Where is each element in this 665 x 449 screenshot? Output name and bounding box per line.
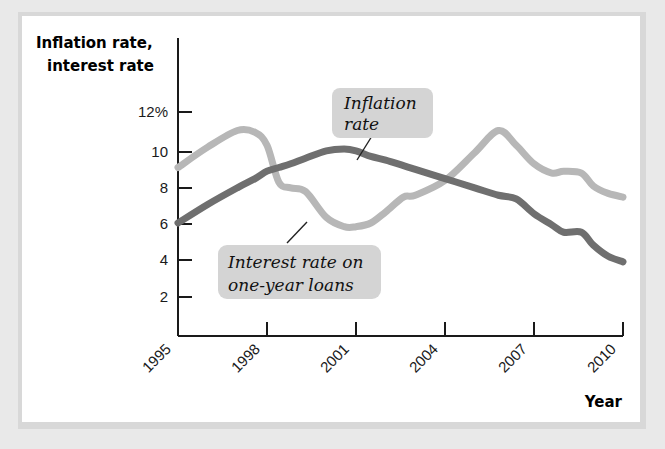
inflation-rate-callout-line1: Inflation (343, 93, 417, 113)
y-tick-label-4: 4 (160, 251, 168, 268)
x-axis-title: Year (584, 393, 623, 411)
y-tick-label-10: 10 (151, 143, 168, 160)
interest-rate-callout: Interest rate on one-year loans (218, 222, 381, 299)
y-axis-ticks (178, 112, 192, 297)
line-chart: Inflation rate, interest rate 12% 10 8 6… (0, 0, 665, 449)
x-tick-label-1995: 1995 (139, 340, 175, 376)
x-tick-label-1998: 1998 (228, 340, 264, 376)
y-axis-title-line2: interest rate (47, 57, 154, 75)
y-tick-label-12: 12% (138, 103, 168, 120)
interest-rate-leader-line (287, 222, 307, 243)
y-tick-label-8: 8 (160, 179, 168, 196)
interest-rate-callout-line1: Interest rate on (227, 252, 363, 272)
y-tick-label-6: 6 (160, 215, 168, 232)
series-inflation-rate (178, 149, 623, 262)
inflation-rate-callout-line2: rate (344, 114, 379, 134)
x-tick-label-2010: 2010 (584, 340, 620, 376)
y-tick-label-2: 2 (160, 288, 168, 305)
y-axis-tick-labels: 12% 10 8 6 4 2 (138, 103, 168, 305)
series-group (178, 129, 623, 262)
series-interest-rate-on-one-year-loans (178, 129, 623, 227)
y-axis-title-line1: Inflation rate, (36, 34, 153, 52)
x-tick-label-2007: 2007 (495, 340, 531, 376)
x-tick-label-2004: 2004 (406, 340, 442, 376)
x-axis-tick-labels: 1995 1998 2001 2004 2007 2010 (139, 340, 620, 376)
figure-page: Inflation rate, interest rate 12% 10 8 6… (0, 0, 665, 449)
x-tick-label-2001: 2001 (317, 340, 353, 376)
interest-rate-callout-line2: one-year loans (228, 275, 354, 295)
x-axis-ticks (178, 322, 623, 336)
